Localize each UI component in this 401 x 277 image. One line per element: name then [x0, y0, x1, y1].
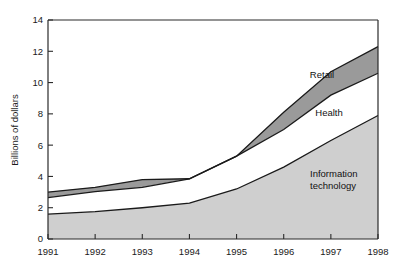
y-tick-label-12: 12 [32, 46, 43, 57]
series-label-information-technology-line1: Information [310, 168, 358, 179]
y-tick-label-0: 0 [38, 233, 43, 244]
y-tick-label-8: 8 [38, 108, 43, 119]
y-tick-label-10: 10 [32, 77, 43, 88]
y-axis-title: Billions of dollars [9, 94, 20, 166]
x-tick-label-1992: 1992 [85, 246, 106, 257]
x-tick-label-1996: 1996 [273, 246, 294, 257]
x-tick-label-1997: 1997 [320, 246, 341, 257]
y-tick-label-2: 2 [38, 202, 43, 213]
y-tick-label-4: 4 [38, 171, 43, 182]
x-tick-label-1998: 1998 [367, 246, 388, 257]
chart-container: 0 2 4 6 8 10 12 14 1991 1992 1993 1994 1 [0, 0, 401, 277]
y-tick-label-6: 6 [38, 140, 43, 151]
x-tick-label-1994: 1994 [179, 246, 200, 257]
x-tick-label-1995: 1995 [226, 246, 247, 257]
area-chart: 0 2 4 6 8 10 12 14 1991 1992 1993 1994 1 [0, 0, 401, 277]
series-label-health: Health [315, 107, 342, 118]
x-tick-label-1991: 1991 [37, 246, 58, 257]
x-tick-label-1993: 1993 [132, 246, 153, 257]
series-label-retail: Retail [310, 69, 334, 80]
y-tick-label-14: 14 [32, 14, 43, 25]
series-label-information-technology-line2: technology [310, 180, 356, 191]
